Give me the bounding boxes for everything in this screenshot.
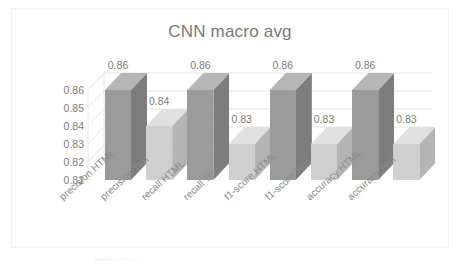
plot-area: 0.86 0.85 0.84 0.83 0.82 0.81 0.860.840.… xyxy=(12,9,450,249)
chart-frame: CNN macro avg xyxy=(11,8,449,248)
x-axis: precision HTMLprecision Textrecall HTMLr… xyxy=(12,9,450,249)
x-tick-label: recall Text xyxy=(181,164,222,202)
page-scan-artifact xyxy=(95,258,155,261)
figure-container: CNN macro avg xyxy=(0,0,462,267)
